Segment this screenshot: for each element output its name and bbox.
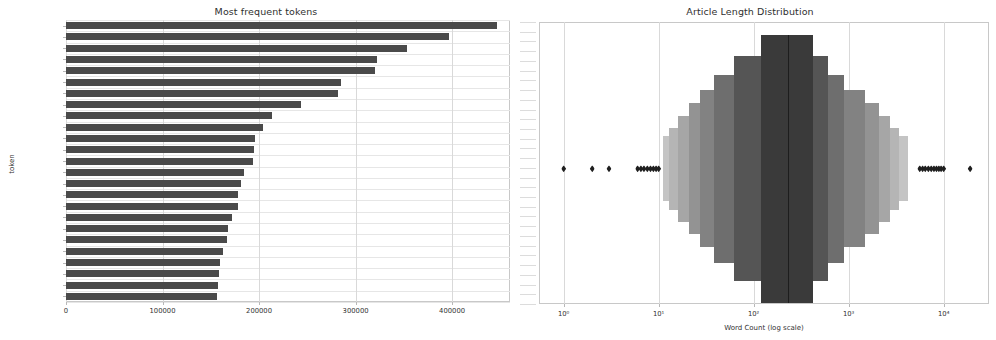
bar-gridline-horizontal (66, 189, 510, 190)
bar-gridline-horizontal (66, 268, 510, 269)
boxen-flier (968, 165, 973, 172)
bar (66, 225, 228, 232)
bar-chart-panel: Most frequent tokens token companymillio… (0, 0, 520, 340)
boxen-minor-tick (520, 294, 536, 295)
bar-gridline-horizontal (66, 110, 510, 111)
bar-row (66, 124, 510, 131)
bar-row (66, 248, 510, 255)
bar (66, 67, 375, 74)
boxen-axis-left (539, 22, 540, 304)
bar-xtick-mark (259, 302, 260, 305)
boxen-xtick-label: 10⁰ (558, 310, 569, 318)
bar (66, 79, 341, 86)
bar-gridline-horizontal (66, 155, 510, 156)
bar (66, 90, 338, 97)
bar-gridline-horizontal (66, 54, 510, 55)
bar-gridline-horizontal (66, 65, 510, 66)
bar-row (66, 90, 510, 97)
boxen-axis-top (539, 22, 989, 23)
boxen-flier (590, 165, 595, 172)
bar-gridline-horizontal (66, 279, 510, 280)
boxen-minor-tick (520, 265, 536, 266)
bar-ytick-mark (63, 251, 66, 252)
boxen-flier (606, 165, 611, 172)
bar (66, 236, 227, 243)
boxen-chart-title: Article Length Distribution (530, 6, 970, 17)
boxen-minor-tick (520, 148, 536, 149)
boxen-flier (561, 165, 566, 172)
bar-ytick-mark (63, 59, 66, 60)
bar-gridline-horizontal (66, 212, 510, 213)
bar-row (66, 22, 510, 29)
bar (66, 124, 263, 131)
bar-row (66, 101, 510, 108)
bar-ytick-mark (63, 184, 66, 185)
bar (66, 191, 238, 198)
boxen-flier (656, 165, 661, 172)
bar-gridline-horizontal (66, 178, 510, 179)
boxen-box (761, 35, 813, 303)
boxen-minor-tick (520, 158, 536, 159)
bar (66, 56, 377, 63)
bar (66, 248, 223, 255)
bar (66, 33, 449, 40)
boxen-minor-tick (520, 178, 536, 179)
boxen-minor-tick (520, 51, 536, 52)
bar-row (66, 191, 510, 198)
bar-ytick-mark (63, 37, 66, 38)
bar (66, 293, 217, 300)
bar (66, 112, 272, 119)
bar-ytick-mark (63, 138, 66, 139)
bar-ytick-mark (63, 26, 66, 27)
bar-gridline-horizontal (66, 200, 510, 201)
bar-row (66, 236, 510, 243)
boxen-gridline-vertical (659, 22, 660, 304)
boxen-plot-area (539, 22, 989, 304)
bar-row (66, 225, 510, 232)
boxen-xtick-label: 10³ (843, 310, 854, 318)
boxen-minor-tick (520, 216, 536, 217)
boxen-minor-tick-ladder (520, 22, 536, 304)
bar-row (66, 158, 510, 165)
boxen-xtick-label: 10¹ (653, 310, 664, 318)
bar-gridline-horizontal (66, 133, 510, 134)
boxen-median-line (788, 35, 789, 303)
boxen-chart-panel: Article Length Distribution Word Count (… (520, 0, 996, 340)
bar-xtick-label: 200000 (246, 307, 272, 315)
boxen-xtick-label: 10² (748, 310, 759, 318)
bar (66, 146, 254, 153)
boxen-gridline-vertical (564, 22, 565, 304)
bar (66, 180, 241, 187)
bar-ytick-mark (63, 48, 66, 49)
bar-gridline-horizontal (66, 76, 510, 77)
bar-xtick-label: 100000 (150, 307, 176, 315)
bar-row (66, 112, 510, 119)
bar-gridline-horizontal (66, 234, 510, 235)
bar-row (66, 56, 510, 63)
bar-row (66, 67, 510, 74)
bar-gridline-horizontal (66, 31, 510, 32)
boxen-xtick-mark (754, 304, 755, 307)
boxen-flier (941, 165, 946, 172)
bar-row (66, 45, 510, 52)
bar-ytick-mark (63, 172, 66, 173)
bar (66, 169, 244, 176)
bar (66, 158, 253, 165)
boxen-xtick-mark (659, 304, 660, 307)
bar-row (66, 270, 510, 277)
bar-xtick-mark (66, 302, 67, 305)
boxen-minor-tick (520, 255, 536, 256)
boxen-minor-tick (520, 187, 536, 188)
bar (66, 45, 407, 52)
bar (66, 203, 238, 210)
bar-ytick-mark (63, 285, 66, 286)
bar-ytick-mark (63, 274, 66, 275)
boxen-xtick-mark (564, 304, 565, 307)
bar-ytick-mark (63, 161, 66, 162)
boxen-minor-tick (520, 90, 536, 91)
boxen-minor-tick (520, 246, 536, 247)
bar-xtick-label: 300000 (343, 307, 369, 315)
bar-row (66, 180, 510, 187)
bar-ytick-mark (63, 127, 66, 128)
bar-gridline-horizontal (66, 291, 510, 292)
